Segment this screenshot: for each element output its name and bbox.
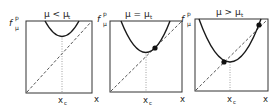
y-axis-label: f	[97, 14, 102, 24]
panel-title-sub: t	[241, 12, 244, 18]
fixed-point-marker	[152, 45, 157, 50]
fixed-point-marker-stable	[256, 22, 261, 27]
map-curve	[45, 21, 79, 37]
panel-mu-less: f p μ μ < μ t x c x	[9, 9, 99, 106]
panel-title: μ < μ	[44, 9, 69, 19]
x-axis-label: x	[263, 94, 268, 104]
map-curve	[121, 21, 170, 53]
panel-mu-greater: f p μ μ > μ t x c x	[181, 7, 268, 105]
y-axis-label: f	[9, 18, 14, 28]
xc-label-sub: c	[64, 100, 67, 106]
y-axis-label-sub: μ	[103, 20, 107, 28]
xc-label: x	[58, 95, 63, 105]
x-axis-label: x	[180, 94, 185, 104]
y-axis-label-sup: p	[15, 14, 19, 22]
xc-label: x	[143, 95, 148, 105]
plot-frame	[110, 21, 182, 92]
xc-label-sub: c	[233, 99, 236, 105]
xc-label-sub: c	[149, 100, 152, 106]
y-axis-label-sub: μ	[187, 20, 191, 28]
figure-canvas: f p μ μ < μ t x c x f p μ μ = μ t x c x …	[0, 0, 280, 108]
panel-title-sub: t	[150, 14, 153, 20]
map-curve	[199, 19, 261, 62]
xc-label: x	[227, 94, 232, 104]
panel-mu-equal: f p μ μ = μ t x c x	[97, 9, 185, 106]
y-axis-label-sup: p	[103, 10, 107, 18]
panel-title-sub: t	[68, 14, 71, 20]
identity-diagonal	[111, 22, 181, 91]
panel-title: μ = μ	[125, 9, 150, 19]
y-axis-label: f	[181, 14, 186, 24]
panel-title: μ > μ	[216, 7, 241, 17]
identity-diagonal	[27, 22, 91, 92]
fixed-point-marker-unstable	[221, 59, 226, 64]
y-axis-label-sup: p	[187, 10, 191, 18]
x-axis-label: x	[94, 94, 99, 104]
y-axis-label-sub: μ	[15, 24, 19, 32]
